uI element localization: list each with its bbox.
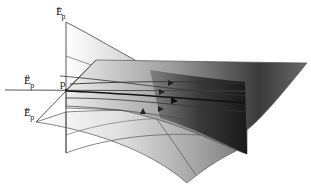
unstable-label-sup: u [26,105,30,113]
center-label-sub: p [30,81,34,90]
unstable-subspace-label: Eup [24,107,34,118]
stable-label-sub: p [61,12,65,21]
manifold-svg [0,0,311,191]
center-label-sup: 0 [26,73,30,81]
manifold-diagram: Esp E0p Eup p [0,0,311,191]
center-subspace-label: E0p [24,75,34,86]
point-p-label: p [60,78,66,89]
point-p [65,89,67,91]
stable-subspace-label: Esp [56,6,65,17]
unstable-label-sub: p [30,113,34,122]
